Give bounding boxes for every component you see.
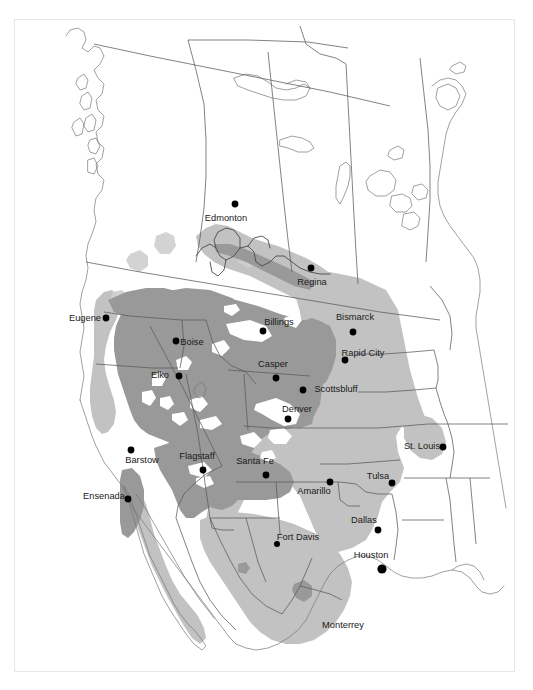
city-label: Dallas [351,515,377,525]
city-marker[interactable]: Monterrey [322,620,364,630]
city-label: Edmonton [205,213,247,223]
city-marker[interactable]: Edmonton [205,201,247,223]
city-marker[interactable]: Barstow [125,447,159,465]
city-dot[interactable] [389,480,396,487]
city-label: Bismarck [336,312,375,322]
city-label: Boise [180,337,203,347]
city-dot[interactable] [263,472,270,479]
city-label: Eugene [69,313,101,323]
city-marker[interactable]: St. Louis [404,441,446,451]
city-dot[interactable] [285,416,292,423]
city-label: Fort Davis [277,532,320,542]
city-label: Denver [282,404,312,414]
city-label: St. Louis [404,441,441,451]
city-dot[interactable] [273,375,280,382]
city-dot[interactable] [103,315,110,322]
city-dot[interactable] [176,373,183,380]
city-label: Elko [151,370,169,380]
city-dot[interactable] [200,467,207,474]
city-dot[interactable] [232,201,239,208]
city-label: Flagstaff [179,451,215,461]
city-label: Scottsbluff [314,384,358,394]
city-label: Tulsa [367,471,390,481]
city-marker[interactable]: Houston [354,550,389,574]
map-page: EdmontonReginaBismarckEugeneBillingsBois… [0,0,533,690]
city-marker[interactable]: Ensenada [83,491,131,502]
city-dot[interactable] [125,496,132,503]
range-map-svg: EdmontonReginaBismarckEugeneBillingsBois… [0,0,533,690]
city-label: Barstow [125,455,159,465]
city-label: Casper [258,359,288,369]
city-dot[interactable] [350,329,357,336]
city-dot[interactable] [128,447,135,454]
city-dot[interactable] [375,527,382,534]
city-dot[interactable] [377,564,386,573]
map-canvas: EdmontonReginaBismarckEugeneBillingsBois… [0,0,533,690]
city-dot[interactable] [440,444,447,451]
city-label: Ensenada [83,491,126,501]
city-dot[interactable] [173,338,180,345]
city-label: Rapid City [342,348,385,358]
city-dot[interactable] [260,328,267,335]
city-label: Santa Fe [236,456,274,466]
city-label: Monterrey [322,620,364,630]
city-label: Regina [297,277,327,287]
city-dot[interactable] [300,387,307,394]
city-label: Houston [354,550,389,560]
city-label: Amarillo [297,486,331,496]
city-dot[interactable] [327,479,334,486]
city-label: Billings [264,317,294,327]
city-dot[interactable] [308,265,315,272]
